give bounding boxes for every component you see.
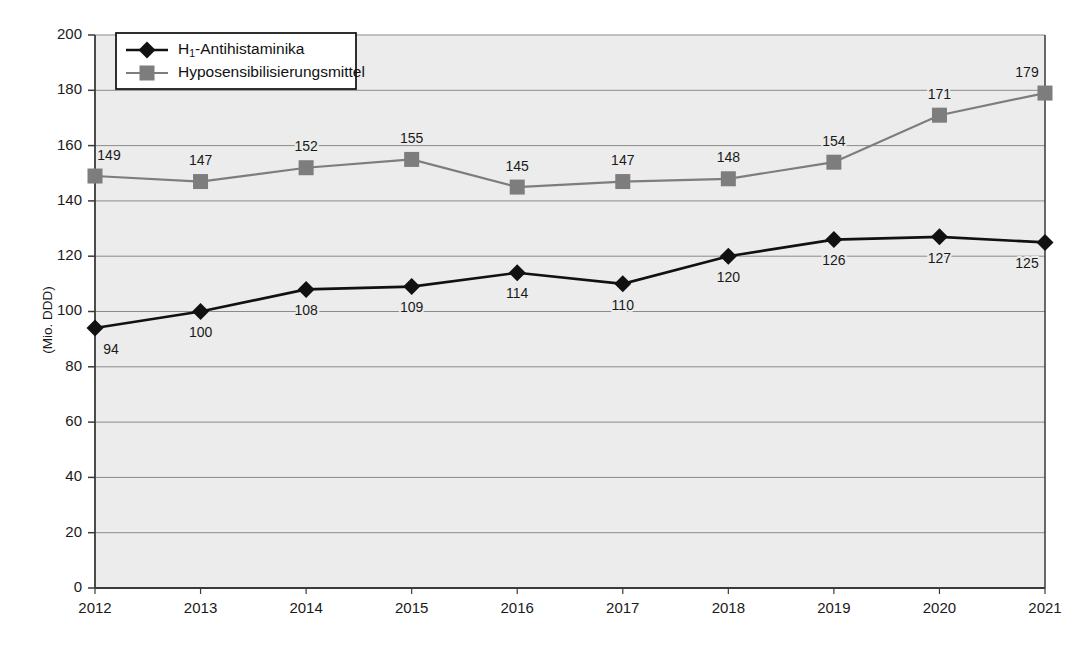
x-tick-label: 2021	[1028, 599, 1061, 616]
data-point-label: 179	[1015, 64, 1039, 80]
y-tick-label: 80	[65, 357, 82, 374]
x-tick-label: 2013	[184, 599, 217, 616]
data-point-marker	[88, 169, 103, 184]
data-point-marker	[826, 155, 841, 170]
y-tick-label: 20	[65, 523, 82, 540]
x-axis-tick-labels: 2012201320142015201620172018201920202021	[78, 599, 1061, 616]
data-point-marker	[932, 108, 947, 123]
y-tick-label: 180	[57, 80, 82, 97]
data-point-label: 110	[612, 297, 635, 313]
data-point-marker	[404, 152, 419, 167]
legend-label: H1-Antihistaminika	[178, 40, 305, 59]
line-chart: 020406080100120140160180200 201220132014…	[0, 0, 1088, 645]
data-point-label: 94	[103, 341, 119, 357]
y-axis-title: (Mio. DDD)	[40, 286, 55, 354]
chart-legend: H1-AntihistaminikaHyposensibilisierungsm…	[116, 33, 365, 89]
x-tick-label: 2015	[395, 599, 428, 616]
data-point-label: 152	[294, 138, 318, 154]
y-tick-label: 140	[57, 191, 82, 208]
data-point-marker	[721, 171, 736, 186]
data-point-label: 145	[506, 158, 530, 174]
y-tick-label: 160	[57, 136, 82, 153]
legend-label: Hyposensibilisierungsmittel	[178, 63, 365, 80]
x-tick-label: 2014	[289, 599, 322, 616]
y-tick-label: 100	[57, 301, 82, 318]
data-point-label: 100	[189, 324, 213, 340]
x-tick-label: 2017	[606, 599, 639, 616]
y-axis-tick-labels: 020406080100120140160180200	[57, 25, 82, 595]
y-tick-label: 200	[57, 25, 82, 42]
data-point-label: 120	[717, 269, 741, 285]
data-point-marker	[1038, 86, 1053, 101]
x-tick-label: 2020	[923, 599, 956, 616]
x-tick-label: 2016	[501, 599, 534, 616]
x-tick-label: 2019	[817, 599, 850, 616]
data-point-label: 108	[294, 302, 318, 318]
data-point-label: 155	[400, 130, 424, 146]
data-point-marker	[193, 174, 208, 189]
chart-container: 020406080100120140160180200 201220132014…	[0, 0, 1088, 645]
data-point-marker	[615, 174, 630, 189]
data-point-label: 154	[822, 133, 846, 149]
data-point-label: 148	[717, 149, 741, 165]
data-point-label: 109	[400, 299, 424, 315]
x-tick-label: 2012	[78, 599, 111, 616]
data-point-label: 147	[611, 152, 635, 168]
data-point-marker	[510, 180, 525, 195]
data-point-label: 127	[928, 250, 952, 266]
data-point-label: 171	[928, 86, 952, 102]
data-point-label: 126	[822, 252, 846, 268]
x-tick-label: 2018	[712, 599, 745, 616]
data-point-label: 149	[97, 147, 121, 163]
legend-swatch-marker	[140, 66, 155, 81]
y-axis-ticks	[88, 35, 95, 588]
data-point-label: 147	[189, 152, 213, 168]
data-point-marker	[299, 160, 314, 175]
data-point-label: 114	[506, 285, 529, 301]
y-tick-label: 120	[57, 246, 82, 263]
y-tick-label: 40	[65, 467, 82, 484]
y-tick-label: 0	[74, 578, 82, 595]
y-tick-label: 60	[65, 412, 82, 429]
x-axis-ticks	[95, 588, 1045, 594]
data-point-label: 125	[1015, 255, 1039, 271]
